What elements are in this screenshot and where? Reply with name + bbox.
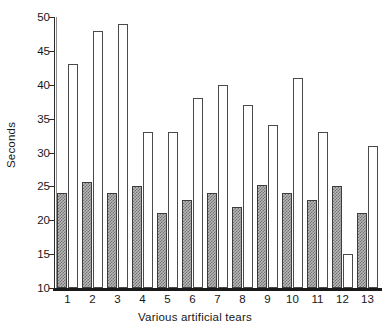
x-axis-line (53, 288, 382, 291)
bar-group (330, 17, 355, 288)
bar-open (143, 132, 153, 288)
bar-group (305, 17, 330, 288)
bar-open (68, 64, 78, 288)
bar-hatched (332, 186, 342, 288)
bar-group (105, 17, 130, 288)
x-axis-tick-labels: 12345678910111213 (55, 293, 380, 311)
bar-open (93, 31, 103, 288)
bar-group (155, 17, 180, 288)
x-axis-tick-label: 4 (139, 293, 145, 305)
bar-hatched (157, 213, 167, 288)
bar-hatched (182, 200, 192, 288)
bar-group (80, 17, 105, 288)
y-axis-tick-mark (49, 17, 55, 18)
x-axis-tick-label: 7 (214, 293, 220, 305)
bar-open (343, 254, 353, 288)
y-axis-tick-mark (49, 254, 55, 255)
bar-open (193, 98, 203, 288)
y-axis-tick-mark (49, 51, 55, 52)
plot-area (55, 17, 380, 288)
x-axis-tick-label: 6 (189, 293, 195, 305)
x-axis-tick-label: 8 (239, 293, 245, 305)
y-axis-tick-mark (49, 220, 55, 221)
bar-group (255, 17, 280, 288)
bar-hatched (82, 182, 92, 288)
x-axis-tick-label: 9 (264, 293, 270, 305)
y-axis-tick-mark (49, 85, 55, 86)
bar-hatched (357, 213, 367, 288)
bar-open (293, 78, 303, 288)
y-axis-tick-labels: 101520253035404550 (20, 0, 50, 330)
bar-group (55, 17, 80, 288)
bars-layer (55, 17, 380, 288)
bar-open (168, 132, 178, 288)
x-axis-tick-label: 12 (336, 293, 349, 305)
x-axis-tick-label: 2 (89, 293, 95, 305)
bar-open (118, 24, 128, 288)
y-axis-tick-mark (49, 119, 55, 120)
bar-open (218, 85, 228, 288)
y-axis-title: Seconds (2, 0, 20, 290)
bar-open (368, 146, 378, 288)
y-axis-tick-mark (49, 186, 55, 187)
bar-hatched (107, 193, 117, 288)
x-axis-tick-label: 10 (286, 293, 299, 305)
bar-group (180, 17, 205, 288)
y-axis-title-label: Seconds (5, 122, 17, 168)
bar-group (355, 17, 380, 288)
y-axis-tick-mark (49, 153, 55, 154)
x-axis-tick-label: 13 (361, 293, 374, 305)
bar-hatched (282, 193, 292, 288)
bar-hatched (232, 207, 242, 288)
bar-hatched (57, 193, 67, 288)
bar-hatched (132, 186, 142, 288)
x-axis-tick-label: 11 (312, 293, 324, 305)
bar-open (268, 125, 278, 288)
bar-chart: Seconds 101520253035404550 1234567891011… (0, 0, 390, 330)
bar-hatched (257, 185, 267, 288)
bar-open (318, 132, 328, 288)
bar-group (130, 17, 155, 288)
x-axis-tick-label: 5 (164, 293, 170, 305)
bar-group (205, 17, 230, 288)
bar-group (280, 17, 305, 288)
bar-group (230, 17, 255, 288)
y-axis-tick-mark (49, 288, 55, 289)
bar-open (243, 105, 253, 288)
x-axis-tick-label: 3 (114, 293, 120, 305)
bar-hatched (307, 200, 317, 288)
x-axis-tick-label: 1 (64, 293, 70, 305)
bar-hatched (207, 193, 217, 288)
x-axis-title: Various artificial tears (0, 311, 390, 323)
